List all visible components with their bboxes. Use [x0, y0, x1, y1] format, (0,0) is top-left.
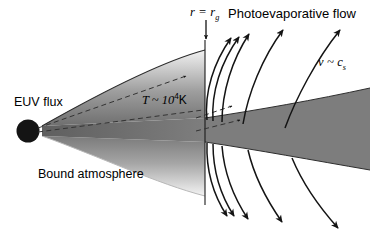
- velocity-subscript-s: s: [343, 63, 346, 72]
- outflow-wedge-body: [205, 88, 370, 170]
- velocity-symbol-v: v: [318, 55, 324, 69]
- photoevaporative-flow-label: Photoevaporative flow: [228, 6, 356, 21]
- velocity-label: v ~ cs: [318, 55, 346, 72]
- bound-wedge-upper: [42, 50, 205, 126]
- streamline-up-3: [222, 34, 249, 122]
- temperature-label: T ~ 104K: [142, 92, 187, 108]
- bound-atmosphere-label: Bound atmosphere: [38, 167, 144, 181]
- radius-equals: =: [198, 5, 206, 19]
- gravitational-radius-label: r = rg: [190, 5, 219, 22]
- central-star-disk: [17, 120, 40, 143]
- radius-symbol-r: r: [190, 5, 195, 19]
- streamline-down-3: [222, 146, 248, 219]
- streamline-down-4: [248, 150, 282, 222]
- photoevaporation-diagram: EUV flux T ~ 104K Bound atmosphere Photo…: [0, 0, 370, 245]
- streamline-up-2: [213, 37, 239, 121]
- diagram-canvas: [0, 0, 370, 245]
- euv-flux-label: EUV flux: [14, 95, 63, 109]
- streamline-down-5: [292, 158, 338, 228]
- temperature-unit: K: [179, 93, 187, 107]
- velocity-tilde: ~: [327, 55, 334, 69]
- radius-subscript-g: g: [215, 13, 219, 22]
- photoevaporative-wedge: [205, 88, 370, 170]
- temperature-prefix: T ~ 10: [142, 93, 174, 107]
